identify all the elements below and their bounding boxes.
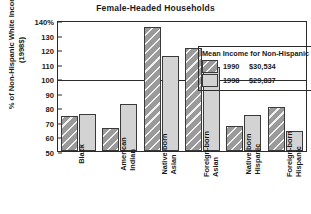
y-tick-label: 120 [41, 47, 58, 56]
x-label-cell: Native-bornAsian [140, 152, 182, 214]
legend-item-1998: 1998 $29,837 [202, 74, 311, 87]
bar-1990 [226, 126, 243, 151]
bar-1990 [268, 107, 285, 151]
y-tick-label: 110 [42, 61, 58, 70]
y-tick-label: 70 [46, 119, 58, 128]
bar-1990 [102, 128, 119, 151]
x-label-cell: Foreign-bornHispanic [265, 152, 307, 214]
hatched-dark-gray-swatch [202, 60, 218, 73]
x-label-cell: AmericanIndian [99, 152, 141, 214]
bar-1990 [61, 116, 78, 151]
chart-title: Female-Headed Households [0, 3, 311, 13]
y-tick-label: 60 [46, 134, 58, 143]
x-axis-label: AmericanIndian [120, 137, 137, 171]
legend-title: Mean Income for Non-Hispanic Whites [202, 49, 311, 58]
x-label-cell: Foreign-bornAsian [182, 152, 224, 214]
bar-group [141, 22, 182, 151]
legend-value-1990: $30,534 [249, 62, 276, 71]
x-axis-labels: BlackAmericanIndianNative-bornAsianForei… [57, 152, 307, 214]
y-tick-label: 140% [35, 18, 58, 27]
y-tick-label: 100 [41, 76, 58, 85]
bar-group [99, 22, 140, 151]
legend-year-1998: 1998 [223, 76, 249, 85]
legend-box: Mean Income for Non-Hispanic Whites 1990… [198, 46, 311, 91]
y-tick-label: 130 [41, 32, 58, 41]
plot-area: 140%1301201101009080706050 Mean Income f… [57, 21, 307, 152]
x-axis-label: Black [78, 144, 87, 164]
bar-1990 [144, 27, 161, 151]
x-label-cell: Native-bornHispanic [224, 152, 266, 214]
chart-container: Female-Headed Households % of Non-Hispan… [0, 0, 311, 214]
y-tick-label: 90 [46, 90, 58, 99]
legend-year-1990: 1990 [223, 62, 249, 71]
legend-item-1990: 1990 $30,534 [202, 60, 311, 73]
x-axis-label: Native-bornAsian [161, 133, 178, 174]
x-axis-label: Foreign-bornHispanic [286, 131, 303, 177]
x-label-cell: Black [57, 152, 99, 214]
legend-value-1998: $29,837 [249, 76, 276, 85]
x-axis-label: Native-bornHispanic [245, 133, 262, 174]
bar-group [58, 22, 99, 151]
y-tick-label: 80 [46, 105, 58, 114]
light-gray-swatch [202, 74, 218, 87]
y-axis-title: % of Non-Hispanic White Income (1998$) [7, 0, 27, 115]
x-axis-label: Foreign-bornAsian [203, 131, 220, 177]
